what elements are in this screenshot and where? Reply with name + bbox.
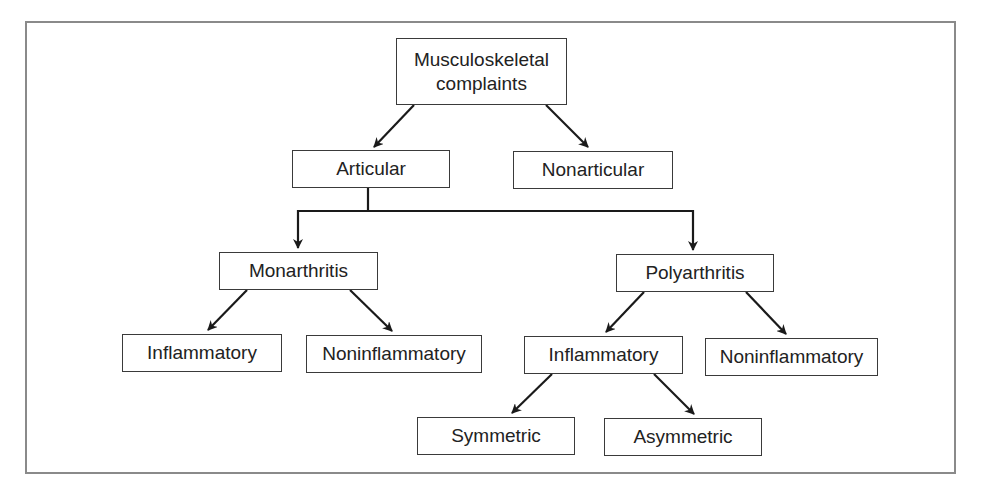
- node-label: Articular: [336, 157, 406, 181]
- node-label: Polyarthritis: [645, 261, 744, 285]
- node-asymmetric: Asymmetric: [604, 418, 762, 456]
- node-musculoskeletal-complaints: Musculoskeletal complaints: [396, 38, 567, 105]
- node-poly-noninflammatory: Noninflammatory: [705, 338, 878, 376]
- node-label-line1: Musculoskeletal: [414, 48, 549, 72]
- node-articular: Articular: [292, 150, 450, 188]
- node-label: Monarthritis: [249, 259, 348, 283]
- node-mono-noninflammatory: Noninflammatory: [306, 335, 482, 373]
- node-symmetric: Symmetric: [417, 417, 575, 455]
- node-mono-inflammatory: Inflammatory: [122, 334, 282, 372]
- node-label-line2: complaints: [436, 72, 527, 96]
- node-label: Symmetric: [451, 424, 541, 448]
- node-label: Inflammatory: [147, 341, 257, 365]
- node-nonarticular: Nonarticular: [513, 151, 673, 189]
- node-label: Asymmetric: [633, 425, 732, 449]
- node-monarthritis: Monarthritis: [219, 252, 378, 290]
- node-polyarthritis: Polyarthritis: [616, 254, 774, 292]
- node-label: Inflammatory: [549, 343, 659, 367]
- node-label: Noninflammatory: [720, 345, 864, 369]
- node-poly-inflammatory: Inflammatory: [524, 336, 683, 374]
- node-label: Nonarticular: [542, 158, 644, 182]
- node-label: Noninflammatory: [322, 342, 466, 366]
